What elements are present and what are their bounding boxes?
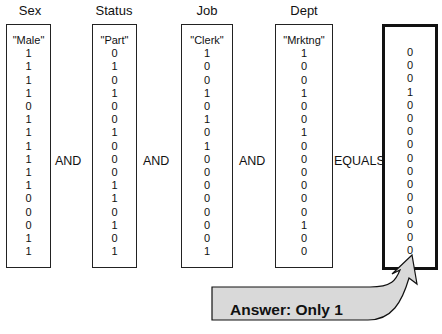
answer-label: Answer: Only 1 <box>230 301 343 319</box>
curved-arrow-icon <box>0 0 442 334</box>
